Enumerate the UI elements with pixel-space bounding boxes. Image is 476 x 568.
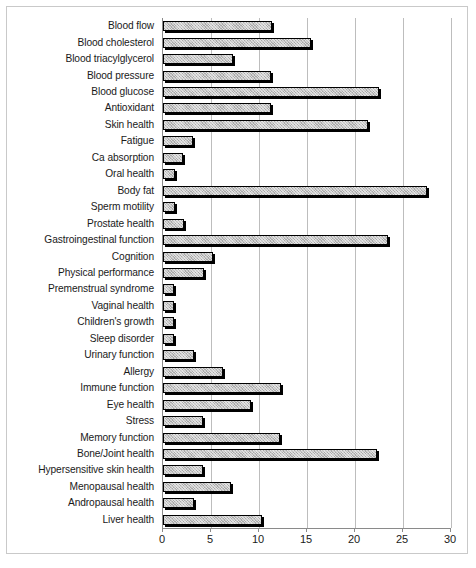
bar <box>163 433 280 443</box>
x-axis-tick-label: 25 <box>396 534 408 545</box>
chart-figure: Blood flowBlood cholesterolBlood triacyl… <box>0 0 476 568</box>
category-label: Allergy <box>12 367 154 377</box>
category-label: Blood triacylglycerol <box>12 54 154 64</box>
category-label: Physical performance <box>12 268 154 278</box>
plot-wrapper: Blood flowBlood cholesterolBlood triacyl… <box>0 0 476 568</box>
bar <box>163 202 175 212</box>
bar <box>163 449 377 459</box>
category-label: Children's growth <box>12 317 154 327</box>
category-label: Stress <box>12 416 154 426</box>
bar <box>163 252 213 262</box>
x-axis-tick-label: 10 <box>252 534 264 545</box>
category-label: Cognition <box>12 252 154 262</box>
category-label: Body fat <box>12 186 154 196</box>
category-label: Ca absorption <box>12 153 154 163</box>
category-label: Skin health <box>12 120 154 130</box>
bar <box>163 482 231 492</box>
y-axis-category-labels: Blood flowBlood cholesterolBlood triacyl… <box>18 18 158 528</box>
gridline <box>451 18 452 528</box>
gridline <box>403 18 404 528</box>
category-label: Blood cholesterol <box>12 38 154 48</box>
bar <box>163 498 194 508</box>
bar <box>163 367 223 377</box>
category-label: Oral health <box>12 169 154 179</box>
bar <box>163 465 203 475</box>
category-label: Blood flow <box>12 21 154 31</box>
bar <box>163 186 427 196</box>
category-label: Menopausal health <box>12 482 154 492</box>
bar <box>163 268 204 278</box>
bar <box>163 120 368 130</box>
bar <box>163 54 233 64</box>
bar <box>163 334 174 344</box>
bar <box>163 400 251 410</box>
category-label: Antioxidant <box>12 103 154 113</box>
x-axis-tick-mark <box>402 528 403 532</box>
category-label: Hypersensitive skin health <box>12 465 154 475</box>
category-label: Prostate health <box>12 219 154 229</box>
category-label: Sleep disorder <box>12 334 154 344</box>
x-axis-tick-mark <box>306 528 307 532</box>
category-label: Fatigue <box>12 136 154 146</box>
bar <box>163 515 262 525</box>
bar <box>163 383 281 393</box>
bar <box>163 169 175 179</box>
x-axis-tick-mark <box>162 528 163 532</box>
bar <box>163 416 203 426</box>
x-axis-tick-label: 0 <box>159 534 165 545</box>
category-label: Blood pressure <box>12 71 154 81</box>
category-label: Premenstrual syndrome <box>12 284 154 294</box>
category-label: Bone/Joint health <box>12 449 154 459</box>
category-label: Memory function <box>12 433 154 443</box>
category-label: Eye health <box>12 400 154 410</box>
bar <box>163 21 272 31</box>
plot-area <box>162 18 451 528</box>
bar <box>163 284 174 294</box>
category-label: Immune function <box>12 383 154 393</box>
x-axis-tick-label: 30 <box>444 534 456 545</box>
bar <box>163 235 388 245</box>
category-label: Liver health <box>12 515 154 525</box>
category-label: Sperm motility <box>12 202 154 212</box>
category-label: Gastroingestinal function <box>12 235 154 245</box>
bar <box>163 301 174 311</box>
x-axis-tick-label: 15 <box>300 534 312 545</box>
bar <box>163 87 379 97</box>
x-axis-tick-mark <box>450 528 451 532</box>
category-label: Andropausal health <box>12 498 154 508</box>
bar <box>163 219 184 229</box>
bar <box>163 153 183 163</box>
bar <box>163 103 271 113</box>
bar <box>163 136 193 146</box>
bar <box>163 38 311 48</box>
bar <box>163 71 271 81</box>
bar <box>163 317 174 327</box>
x-axis-tick-mark <box>354 528 355 532</box>
x-axis-tick-mark <box>210 528 211 532</box>
x-axis-tick-mark <box>258 528 259 532</box>
category-label: Vaginal health <box>12 301 154 311</box>
bar <box>163 350 194 360</box>
category-label: Blood glucose <box>12 87 154 97</box>
x-axis-tick-label: 20 <box>348 534 360 545</box>
category-label: Urinary function <box>12 350 154 360</box>
x-axis-tick-label: 5 <box>207 534 213 545</box>
